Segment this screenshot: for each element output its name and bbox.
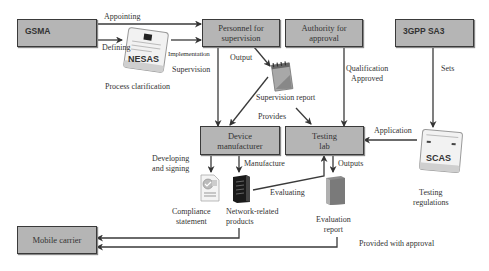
- supervision-report-label: Supervision report: [256, 93, 315, 103]
- qualification-line1: Qualification: [346, 64, 388, 73]
- scas-document-icon: SCAS: [417, 128, 465, 174]
- device-manufacturer-node: Device manufacturer: [200, 126, 280, 155]
- network-related-products-label: Network-related products: [226, 207, 278, 226]
- device-label-line1: Device: [228, 131, 252, 141]
- personnel-label-line1: Personnel for: [218, 23, 264, 33]
- carrier-label: Mobile carrier: [33, 235, 82, 245]
- provides-label: Provides: [258, 112, 286, 122]
- sets-label: Sets: [441, 64, 454, 74]
- developing-and-signing-label: Developing and signing: [152, 154, 189, 173]
- mobile-carrier-node: Mobile carrier: [17, 226, 97, 254]
- network-products-server-icon: [230, 174, 252, 204]
- lab-label-line2: lab: [319, 141, 329, 151]
- developing-line1: Developing: [152, 154, 189, 163]
- gsma-node: GSMA: [17, 19, 97, 47]
- evaluation-line1: Evaluation: [316, 215, 351, 224]
- evaluation-report-book-icon: [323, 174, 347, 206]
- authority-label-line1: Authority for: [301, 23, 346, 33]
- implementation-label: Implementation: [168, 50, 210, 60]
- device-label-line2: manufacturer: [217, 141, 262, 151]
- scas-icon-label: SCAS: [426, 153, 451, 163]
- output-label: Output: [230, 53, 252, 63]
- defining-label: Defining: [102, 43, 130, 53]
- authority-label-line2: approval: [309, 33, 339, 43]
- manufacture-label: Manufacture: [244, 159, 285, 169]
- qualification-line2: Approved: [351, 74, 383, 83]
- network-line2: products: [226, 217, 254, 226]
- evaluation-line2: report: [324, 225, 343, 234]
- process-clarification-label: Process clarification: [105, 82, 170, 92]
- lab-label-line1: Testing: [312, 131, 337, 141]
- compliance-statement-label: Compliance statement: [172, 207, 211, 226]
- supervision-report-notepad-icon: [270, 60, 294, 92]
- compliance-statement-document-icon: [199, 174, 221, 202]
- testing-reg-line2: regulations: [413, 198, 449, 207]
- network-line1: Network-related: [226, 207, 278, 216]
- developing-line2: and signing: [152, 164, 189, 173]
- 3gpp-sa3-node: 3GPP SA3: [395, 19, 474, 47]
- qualification-approved-label: Qualification Approved: [346, 64, 388, 83]
- testing-regulations-label: Testing regulations: [413, 188, 449, 207]
- testing-reg-line1: Testing: [419, 188, 442, 197]
- compliance-line2: statement: [176, 217, 207, 226]
- compliance-line1: Compliance: [172, 207, 211, 216]
- evaluation-report-label: Evaluation report: [316, 215, 351, 234]
- evaluating-label: Evaluating: [270, 188, 305, 198]
- authority-for-approval-node: Authority for approval: [285, 19, 363, 47]
- appointing-label: Appointing: [104, 12, 140, 22]
- nesas-icon-label: NESAS: [128, 54, 159, 64]
- outputs-label: Outputs: [338, 159, 363, 169]
- application-label: Application: [374, 126, 412, 136]
- personnel-for-supervision-node: Personnel for supervision: [202, 19, 280, 47]
- gsma-label: GSMA: [25, 26, 51, 36]
- supervision-label: Supervision: [172, 65, 210, 75]
- sa3-label: 3GPP SA3: [403, 26, 444, 36]
- testing-lab-node: Testing lab: [285, 126, 364, 155]
- personnel-label-line2: supervision: [221, 33, 260, 43]
- provided-with-approval-label: Provided with approval: [359, 239, 434, 249]
